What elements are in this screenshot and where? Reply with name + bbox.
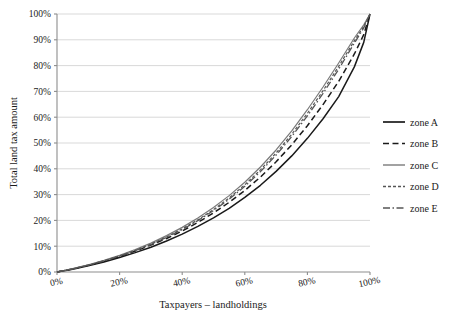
y-axis-tick-labels: 0%10%20%30%40%50%60%70%80%90%100% [29,9,57,277]
y-tick-label: 90% [34,35,52,45]
x-tick-label: 0% [49,276,64,288]
y-tick-label: 80% [34,61,52,71]
x-axis-tick-labels: 0%20%40%60%80%100% [49,272,381,289]
chart-legend: zone Azone Bzone Czone Dzone E [383,117,439,214]
x-axis-title: Taxpayers – landholdings [159,299,267,310]
y-tick-label: 10% [34,242,52,252]
y-tick-label: 60% [34,113,52,123]
y-tick-label: 100% [29,9,51,19]
legend-label-zone-a: zone A [410,117,439,128]
x-tick-label: 100% [357,275,381,289]
y-tick-label: 70% [34,87,52,97]
lorenz-curve-chart: 0%10%20%30%40%50%60%70%80%90%100% 0%20%4… [0,0,455,319]
legend-label-zone-c: zone C [410,160,438,171]
x-tick-label: 80% [297,275,316,288]
y-tick-label: 50% [34,138,52,148]
x-tick-label: 20% [109,275,128,288]
legend-label-zone-d: zone D [410,181,439,192]
chart-canvas: 0%10%20%30%40%50%60%70%80%90%100% 0%20%4… [0,0,455,319]
y-tick-label: 0% [38,267,51,277]
x-tick-label: 60% [235,275,254,288]
legend-label-zone-b: zone B [410,138,438,149]
y-axis-title: Total land tax amount [8,97,19,189]
y-tick-label: 40% [34,164,52,174]
legend-label-zone-e: zone E [410,203,438,214]
y-tick-label: 30% [34,190,52,200]
y-tick-label: 20% [34,216,52,226]
x-tick-label: 40% [172,275,191,288]
